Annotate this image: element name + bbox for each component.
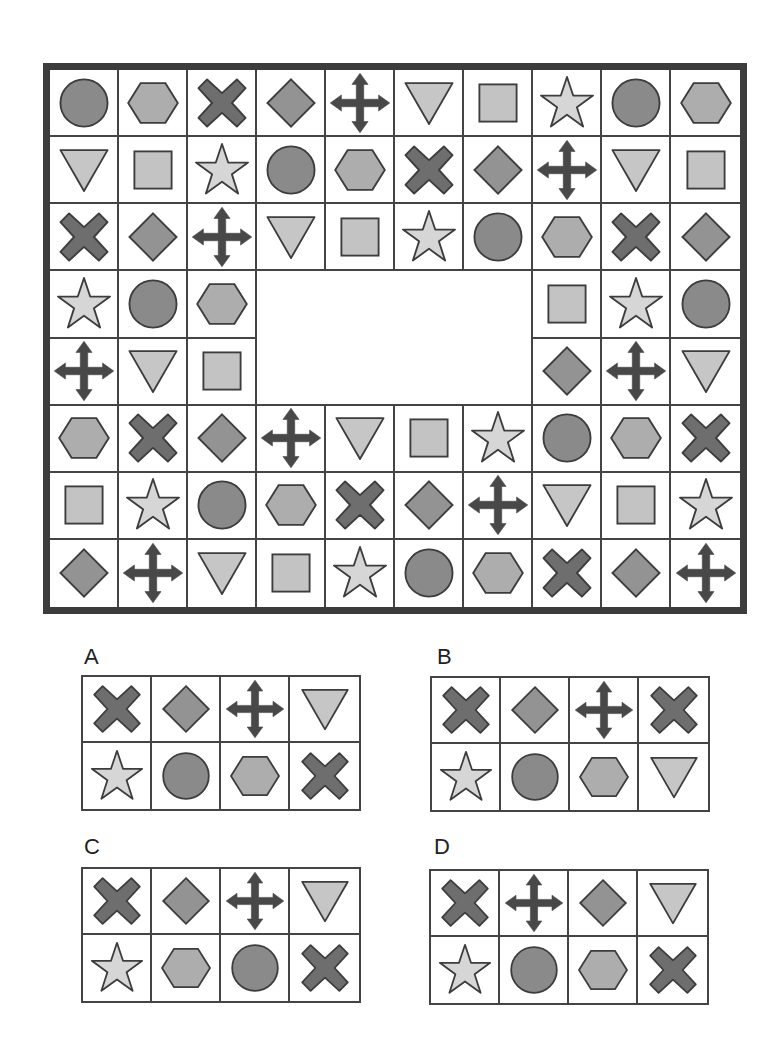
missing-cell [257, 271, 326, 338]
grid-cell-cross [326, 473, 395, 540]
grid-cell-hexagon [671, 70, 740, 137]
star-icon [329, 542, 391, 604]
grid-cell-arrows [533, 137, 602, 204]
option-cell-star [83, 743, 152, 809]
circle-icon [156, 746, 216, 806]
grid-cell-arrows [326, 70, 395, 137]
cross-icon [675, 407, 737, 469]
missing-cell [326, 339, 395, 406]
square-icon [329, 206, 391, 268]
option-cell-hexagon [152, 935, 221, 1001]
diamond-icon [675, 206, 737, 268]
grid-cell-star [464, 406, 533, 473]
hexagon-icon [122, 72, 184, 134]
option-cell-arrows [500, 871, 569, 937]
star-icon [87, 938, 147, 998]
grid-cell-star [188, 137, 257, 204]
star-icon [605, 273, 667, 335]
option-cell-triangle [290, 869, 359, 935]
star-icon [467, 407, 529, 469]
diamond-icon [467, 139, 529, 201]
cross-icon [643, 940, 703, 1000]
option-cell-arrows [221, 677, 290, 743]
grid-cell-diamond [671, 204, 740, 271]
option-cell-diamond [501, 678, 570, 744]
option-cell-cross [290, 935, 359, 1001]
grid-cell-star [602, 271, 671, 338]
option-d-label: D [434, 834, 450, 860]
star-icon [53, 273, 115, 335]
grid-cell-diamond [188, 406, 257, 473]
triangle-icon [295, 871, 355, 931]
circle-icon [536, 407, 598, 469]
option-c[interactable] [81, 867, 361, 1003]
square-icon [122, 139, 184, 201]
grid-cell-cross [671, 406, 740, 473]
square-icon [536, 273, 598, 335]
grid-cell-cross [395, 137, 464, 204]
hexagon-icon [191, 273, 253, 335]
grid-cell-square [50, 473, 119, 540]
triangle-icon [295, 679, 355, 739]
arrows-icon [574, 680, 634, 740]
cross-icon [398, 139, 460, 201]
circle-icon [53, 72, 115, 134]
grid-cell-circle [50, 70, 119, 137]
option-cell-diamond [569, 871, 638, 937]
grid-cell-square [326, 204, 395, 271]
grid-cell-triangle [188, 540, 257, 607]
arrows-icon [329, 72, 391, 134]
square-icon [605, 474, 667, 536]
option-cell-cross [83, 869, 152, 935]
grid-cell-hexagon [257, 473, 326, 540]
triangle-icon [53, 139, 115, 201]
square-icon [53, 474, 115, 536]
arrows-icon [122, 542, 184, 604]
grid-cell-triangle [257, 204, 326, 271]
diamond-icon [156, 679, 216, 739]
option-b[interactable] [430, 676, 710, 812]
triangle-icon [643, 873, 703, 933]
option-cell-cross [638, 937, 707, 1003]
arrows-icon [225, 679, 285, 739]
hexagon-icon [156, 938, 216, 998]
hexagon-icon [605, 407, 667, 469]
option-cell-cross [432, 678, 501, 744]
grid-cell-diamond [533, 339, 602, 406]
circle-icon [605, 72, 667, 134]
grid-cell-circle [533, 406, 602, 473]
missing-cell [326, 271, 395, 338]
grid-cell-triangle [395, 70, 464, 137]
cross-icon [605, 206, 667, 268]
hexagon-icon [329, 139, 391, 201]
triangle-icon [644, 747, 704, 807]
square-icon [260, 542, 322, 604]
diamond-icon [398, 474, 460, 536]
option-a-label: A [84, 644, 99, 670]
cross-icon [436, 680, 496, 740]
missing-cell [464, 271, 533, 338]
diamond-icon [260, 72, 322, 134]
grid-cell-triangle [533, 473, 602, 540]
option-d[interactable] [429, 869, 709, 1005]
grid-cell-triangle [602, 137, 671, 204]
hexagon-icon [260, 474, 322, 536]
cross-icon [53, 206, 115, 268]
arrows-icon [225, 871, 285, 931]
option-a[interactable] [81, 675, 361, 811]
option-cell-hexagon [570, 744, 639, 810]
grid-cell-star [671, 473, 740, 540]
missing-cell [395, 339, 464, 406]
hexagon-icon [574, 747, 634, 807]
grid-cell-circle [671, 271, 740, 338]
circle-icon [398, 542, 460, 604]
grid-cell-arrows [188, 204, 257, 271]
grid-cell-square [671, 137, 740, 204]
arrows-icon [191, 206, 253, 268]
triangle-icon [329, 407, 391, 469]
grid-cell-arrows [119, 540, 188, 607]
diamond-icon [156, 871, 216, 931]
circle-icon [467, 206, 529, 268]
option-cell-star [432, 744, 501, 810]
triangle-icon [675, 340, 737, 402]
